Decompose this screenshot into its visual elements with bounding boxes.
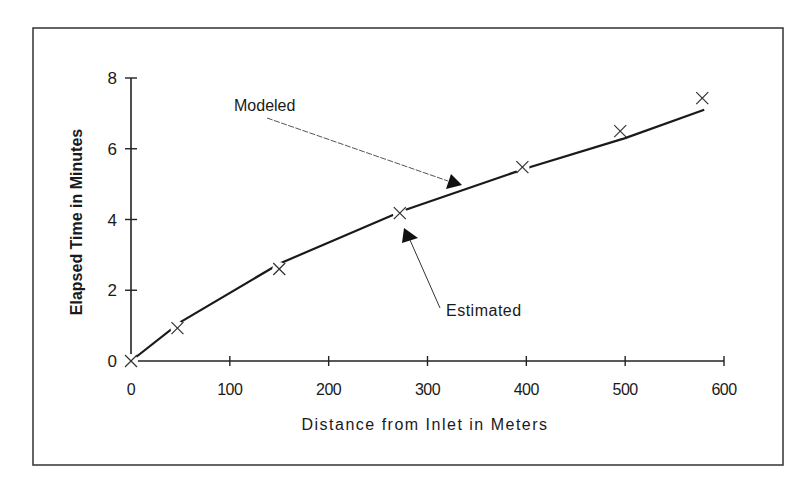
y-tick-label: 4 [108, 211, 117, 230]
y-axis-label: Elapsed Time in Minutes [68, 129, 85, 316]
x-tick-label: 600 [711, 381, 737, 398]
x-tick-label: 400 [514, 381, 540, 398]
estimated-marker [613, 124, 627, 138]
x-tick-label: 100 [217, 381, 243, 398]
y-tick-label: 0 [108, 352, 117, 371]
estimated-series [124, 91, 709, 368]
estimated-marker [515, 160, 529, 174]
chart-svg: 010020030040050060002468 Elapsed Time in… [0, 0, 807, 496]
estimated-marker [170, 321, 184, 335]
annotation-modeled-text: Modeled [234, 97, 295, 114]
annotation-modeled-leader [267, 118, 448, 181]
annotation-estimated: Estimated [402, 228, 522, 319]
x-tick-label: 300 [415, 381, 441, 398]
chart-frame [33, 28, 783, 465]
x-tick-label: 0 [127, 381, 136, 398]
x-tick-label: 500 [613, 381, 639, 398]
modeled-line [131, 110, 704, 361]
estimated-marker [393, 206, 407, 220]
axes: 010020030040050060002468 [108, 69, 738, 398]
y-tick-label: 6 [108, 140, 117, 159]
estimated-marker [695, 91, 709, 105]
annotation-estimated-text: Estimated [446, 302, 522, 319]
estimated-marker [124, 354, 138, 368]
annotation-estimated-leader [410, 240, 440, 308]
x-tick-label: 200 [316, 381, 342, 398]
estimated-marker [272, 262, 286, 276]
x-axis-label: Distance from Inlet in Meters [301, 416, 548, 433]
modeled-series [131, 110, 704, 361]
annotation-modeled: Modeled [234, 97, 462, 189]
y-tick-label: 2 [108, 281, 117, 300]
arrowhead-icon [446, 174, 462, 189]
y-tick-label: 8 [108, 69, 117, 88]
chart-container: 010020030040050060002468 Elapsed Time in… [0, 0, 807, 496]
